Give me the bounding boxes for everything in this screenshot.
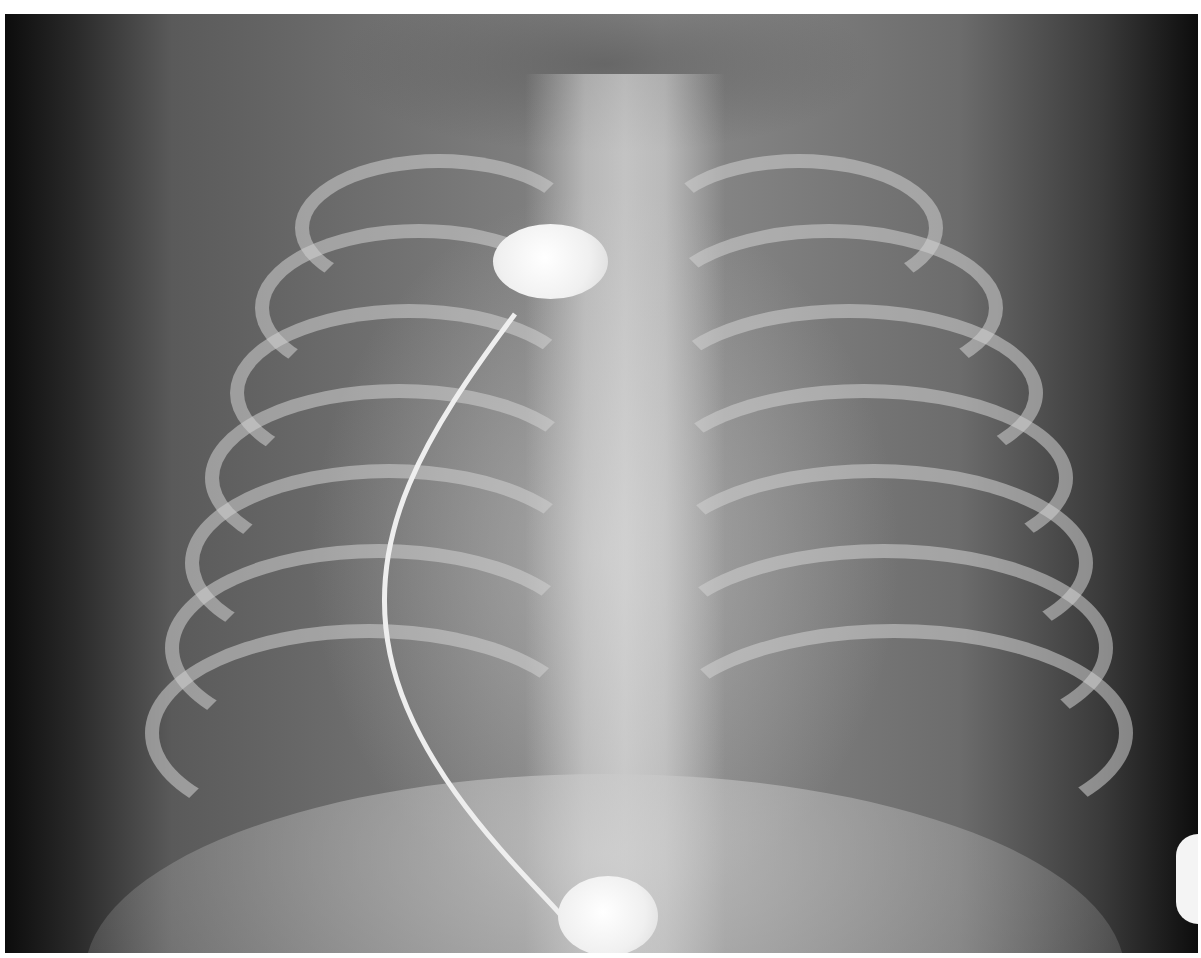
upper-electrode <box>493 224 608 299</box>
lower-electrode <box>558 876 658 953</box>
xray-image <box>5 14 1198 953</box>
electrode-lead-wire <box>5 14 1198 953</box>
edge-electrode <box>1176 834 1198 924</box>
